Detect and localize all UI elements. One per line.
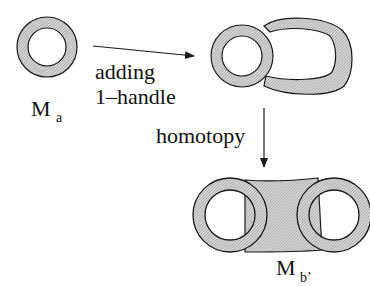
label-Mb-sub: b’ <box>300 270 312 285</box>
label-Mb-main: M <box>276 255 296 280</box>
label-Ma-main: M <box>31 96 51 121</box>
step1-label-line2: 1–handle <box>95 84 176 109</box>
diagram-canvas: M a adding 1–handle homotopy M <box>0 0 370 286</box>
arrow-adding-handle <box>93 46 194 56</box>
step2-label: homotopy <box>156 123 245 148</box>
annulus-with-handle <box>211 18 352 94</box>
label-Mb: M b’ <box>276 255 312 285</box>
label-Ma-sub: a <box>56 110 63 125</box>
step1-label-line1: adding <box>95 59 155 84</box>
double-annulus-Mb <box>193 178 370 252</box>
annulus-Ma <box>17 17 77 77</box>
label-Ma: M a <box>31 96 63 125</box>
